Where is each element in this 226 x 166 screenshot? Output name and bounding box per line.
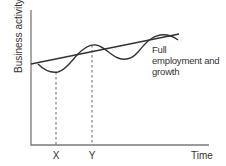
x-axis-label: Time	[191, 150, 213, 161]
tick-label-y: Y	[89, 150, 96, 161]
full-employment-annotation: Full employment and growth	[152, 44, 219, 77]
business-cycle-diagram: Business activity X Y Time	[0, 0, 226, 166]
y-axis-label: Business activity	[13, 0, 24, 73]
annotation-line-2: employment and	[152, 55, 219, 66]
annotation-line-3: growth	[152, 66, 219, 77]
annotation-line-1: Full	[152, 44, 219, 55]
tick-label-x: X	[53, 150, 60, 161]
